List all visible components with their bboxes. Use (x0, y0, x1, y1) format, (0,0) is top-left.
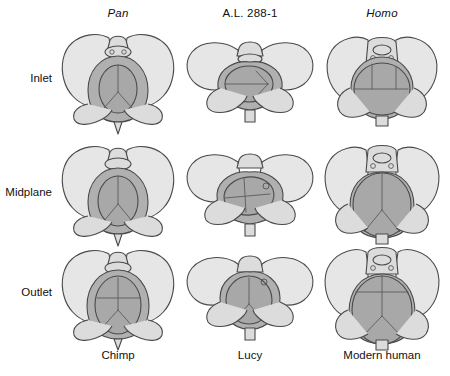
pelvis-drawing-inlet-pan (52, 22, 184, 134)
cell-inlet-pan (52, 22, 184, 134)
pelvis-drawing-outlet-homo (316, 240, 448, 352)
pelvis-drawing-midplane-al288 (184, 136, 316, 248)
pelvis-comparison-figure: Pan A.L. 288-1 Homo Inlet Midplane Outle… (0, 0, 450, 376)
row-label-outlet: Outlet (0, 286, 52, 299)
pubic-symphysis (376, 116, 388, 126)
pelvis-drawing-outlet-al288 (184, 240, 316, 352)
cell-outlet-homo (316, 240, 448, 352)
cell-inlet-al288 (184, 22, 316, 134)
column-footer-lucy: Lucy (185, 349, 315, 362)
pelvis-drawing-outlet-pan (52, 240, 184, 352)
cell-inlet-homo (316, 22, 448, 134)
column-footer-modern-human: Modern human (317, 349, 447, 362)
cell-outlet-al288 (184, 240, 316, 352)
cell-midplane-al288 (184, 136, 316, 248)
pubic-symphysis (245, 224, 255, 236)
vertebral-body (373, 45, 391, 55)
row-label-midplane: Midplane (0, 186, 52, 199)
coccyx (114, 122, 122, 134)
pelvis-drawing-midplane-pan (52, 136, 184, 248)
pelvis-drawing-inlet-al288 (184, 22, 316, 134)
cell-outlet-pan (52, 240, 184, 352)
pelvis-drawing-midplane-homo (316, 136, 448, 248)
cell-midplane-pan (52, 136, 184, 248)
column-header-pan: Pan (53, 7, 183, 20)
row-label-inlet: Inlet (0, 72, 52, 85)
cell-midplane-homo (316, 136, 448, 248)
pubic-symphysis (245, 328, 255, 340)
vertebral-body (373, 255, 391, 265)
sacrum (237, 154, 263, 168)
sacrum (237, 256, 263, 272)
column-header-al288: A.L. 288-1 (185, 7, 315, 20)
column-header-homo: Homo (317, 7, 447, 20)
column-footer-chimp: Chimp (53, 349, 183, 362)
pelvis-drawing-inlet-homo (316, 22, 448, 134)
pubic-symphysis (245, 110, 255, 122)
vertebral-body (373, 153, 391, 163)
